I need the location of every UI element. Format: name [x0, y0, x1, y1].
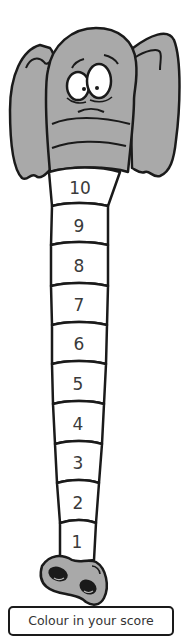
segment-label-10: 10	[60, 178, 100, 198]
trunk-tip	[41, 556, 107, 605]
segment-label-1: 1	[57, 532, 97, 552]
segment-label-4: 4	[58, 414, 98, 434]
caption-text: Colour in your score	[10, 613, 172, 628]
segment-label-9: 9	[59, 216, 99, 236]
segment-label-7: 7	[59, 295, 99, 315]
segment-label-2: 2	[58, 493, 98, 513]
segment-label-3: 3	[58, 453, 98, 473]
left-pupil	[82, 87, 86, 91]
left-eye	[67, 72, 89, 100]
right-eye	[87, 64, 111, 98]
segment-label-6: 6	[59, 334, 99, 354]
caption-box: Colour in your score	[8, 606, 174, 636]
segment-label-8: 8	[59, 256, 99, 276]
right-pupil	[95, 86, 99, 90]
segment-label-5: 5	[58, 374, 98, 394]
